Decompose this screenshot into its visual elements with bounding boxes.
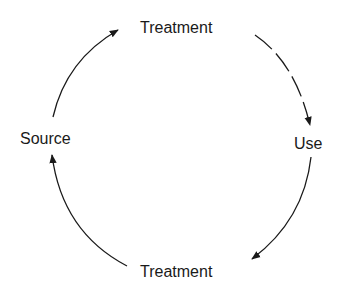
arrow-use-to-treatment [252, 157, 311, 259]
arrow-source-to-treatment [53, 30, 118, 117]
node-source: Source [20, 130, 71, 148]
node-treatment-top: Treatment [140, 19, 212, 37]
arrow-treatment-to-use [255, 35, 310, 125]
node-treatment-bottom: Treatment [140, 263, 212, 281]
water-cycle-diagram: Treatment Use Treatment Source [0, 0, 338, 291]
node-use: Use [294, 135, 322, 153]
arrow-treatment-to-source [52, 155, 127, 266]
